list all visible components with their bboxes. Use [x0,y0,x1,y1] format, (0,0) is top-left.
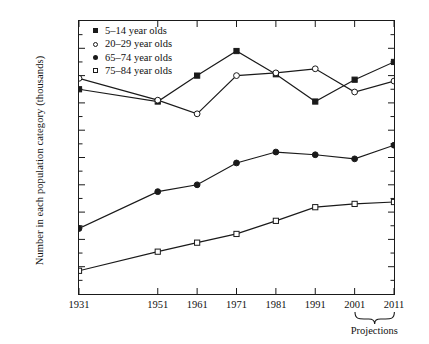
legend-item: 20–29 year olds [88,37,172,50]
legend-item: 5–14 year olds [88,24,172,37]
chart-figure: Number in each population category (thou… [0,0,429,344]
series-filled-circle [79,142,394,231]
legend-item: 75–84 year olds [88,64,172,77]
legend-item: 65–74 year olds [88,51,172,64]
x-tick-label: 1931 [49,299,109,310]
chart-legend: 5–14 year olds20–29 year olds65–74 year … [88,24,172,78]
open-circle-icon [88,42,102,47]
open-square-icon [88,68,102,73]
filled-square-icon [88,28,102,33]
filled-circle-icon [88,55,102,60]
legend-item-label: 5–14 year olds [102,24,167,37]
x-tick-label: 2011 [364,299,424,310]
legend-item-label: 75–84 year olds [102,64,172,77]
series-open-square [79,199,394,273]
projections-label: Projections [333,325,416,336]
legend-item-label: 65–74 year olds [102,51,172,64]
brace-icon [333,312,416,324]
legend-item-label: 20–29 year olds [102,37,172,50]
